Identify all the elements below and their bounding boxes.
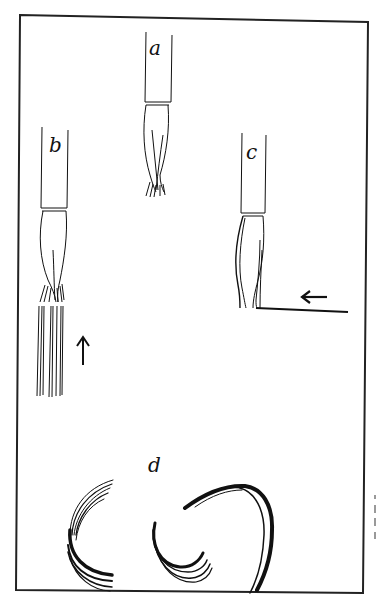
margin-marks [374, 495, 376, 539]
brush-b [37, 127, 68, 397]
label-b: b [49, 135, 62, 155]
arrow-up-icon [77, 337, 89, 365]
curved-stroke-middle [153, 523, 212, 582]
label-a: a [149, 38, 161, 58]
frame-border [16, 15, 368, 593]
label-c: c [246, 142, 257, 162]
arrow-left-icon [302, 291, 327, 303]
illustration-figure: a b c d [0, 0, 379, 613]
curved-stroke-left [68, 480, 113, 591]
label-d: d [148, 455, 161, 475]
brush-technique-drawing [0, 0, 379, 613]
